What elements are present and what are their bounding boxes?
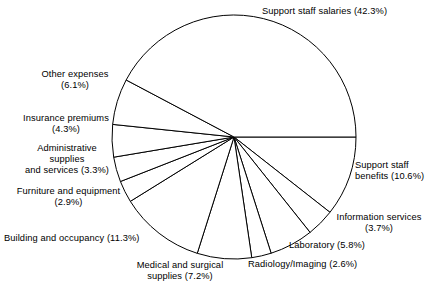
slice-label-administrative-supplies-and-services: Administrative supplies and services (3.… [6, 143, 128, 177]
slice-label-information-services: Information services (3.7%) [322, 212, 436, 234]
pie-slice-group [112, 15, 356, 259]
slice-label-furniture-and-equipment: Furniture and equipment (2.9%) [2, 186, 135, 208]
slice-label-support-staff-salaries: Support staff salaries (42.3%) [262, 6, 434, 17]
slice-label-other-expenses: Other expenses (6.1%) [16, 69, 134, 91]
slice-label-insurance-premiums: Insurance premiums (4.3%) [4, 113, 128, 135]
slice-label-building-and-occupancy: Building and occupancy (11.3%) [4, 233, 172, 244]
slice-label-laboratory: Laboratory (5.8%) [289, 240, 401, 251]
slice-label-radiology-imaging: Radiology/Imaging (2.6%) [248, 259, 376, 270]
pie-chart-figure: Support staff salaries (42.3%) Other exp… [0, 0, 437, 288]
slice-label-medical-and-surgical-supplies: Medical and surgical supplies (7.2%) [116, 260, 244, 282]
slice-label-support-staff-benefits: Support staff benefits (10.6%) [355, 160, 437, 182]
